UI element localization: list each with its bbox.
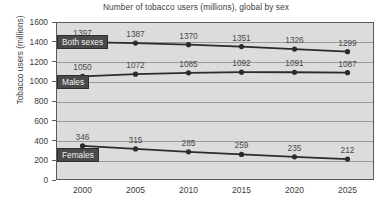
data-point-label: 1387	[111, 29, 161, 39]
gridline	[57, 102, 373, 103]
data-point-label: 285	[164, 138, 214, 148]
data-point-label: 1072	[111, 60, 161, 70]
y-tick-label: 200	[0, 155, 48, 165]
x-tick-label: 2010	[159, 185, 219, 195]
data-point-label: 1370	[164, 31, 214, 41]
x-tick-label: 2015	[212, 185, 272, 195]
data-point-label: 1299	[323, 38, 373, 48]
data-point-label: 1092	[217, 58, 267, 68]
data-point-label: 1351	[217, 33, 267, 43]
series-tag-males: Males	[57, 75, 89, 89]
data-point-label: 346	[58, 132, 108, 142]
x-tick-label: 2000	[53, 185, 113, 195]
chart-title: Number of tobacco users (millions), glob…	[0, 2, 392, 12]
x-tick-label: 2020	[265, 185, 325, 195]
gridline	[57, 161, 373, 162]
data-point-label: 1326	[270, 35, 320, 45]
data-point-label: 1087	[323, 59, 373, 69]
y-tick-label: 600	[0, 116, 48, 126]
x-tick-label: 2025	[318, 185, 378, 195]
x-tick-label: 2005	[106, 185, 166, 195]
y-tick-label: 1600	[0, 17, 48, 27]
gridline	[57, 121, 373, 122]
y-tick-label: 400	[0, 136, 48, 146]
series-tag-both-sexes: Both sexes	[57, 35, 108, 49]
y-tick-label: 1400	[0, 37, 48, 47]
series-tag-females: Females	[57, 148, 99, 162]
y-tick-label: 800	[0, 96, 48, 106]
data-point-label: 235	[270, 143, 320, 153]
data-point-label: 212	[323, 145, 373, 155]
data-point-label: 1091	[270, 58, 320, 68]
data-point-label: 259	[217, 140, 267, 150]
y-tick-label: 0	[0, 175, 48, 185]
chart-container: Number of tobacco users (millions), glob…	[0, 0, 392, 205]
y-tick-label: 1000	[0, 76, 48, 86]
data-point-label: 1050	[58, 62, 108, 72]
gridline	[57, 82, 373, 83]
data-point-label: 1085	[164, 59, 214, 69]
y-tick-label: 1200	[0, 57, 48, 67]
data-point-label: 315	[111, 135, 161, 145]
